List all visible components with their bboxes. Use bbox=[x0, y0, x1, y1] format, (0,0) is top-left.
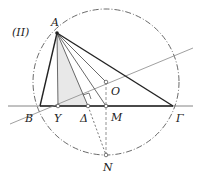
point-delta bbox=[86, 104, 90, 108]
label-delta: Δ bbox=[79, 112, 88, 125]
label-m: M bbox=[110, 111, 123, 124]
label-b: B bbox=[24, 112, 33, 125]
point-n bbox=[104, 153, 108, 157]
point-a bbox=[55, 31, 59, 35]
dashed-dn bbox=[88, 106, 106, 155]
figure-label: (II) bbox=[12, 26, 29, 39]
point-m bbox=[104, 104, 108, 108]
label-gamma: Γ bbox=[175, 112, 184, 125]
geometry-figure: (II) A B Y Δ M O Γ N bbox=[0, 0, 201, 184]
point-y bbox=[56, 104, 60, 108]
label-o: O bbox=[111, 85, 120, 98]
label-n: N bbox=[102, 161, 113, 174]
label-y: Y bbox=[54, 112, 63, 125]
point-o bbox=[104, 80, 108, 84]
label-a: A bbox=[50, 16, 59, 29]
slanted-line bbox=[10, 48, 193, 124]
side-ab bbox=[40, 33, 57, 106]
